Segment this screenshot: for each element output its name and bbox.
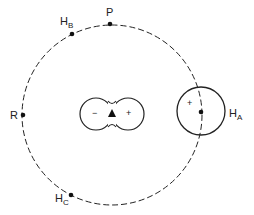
label-hc: HC [55, 193, 69, 204]
point-p [108, 22, 113, 27]
label-p: P [106, 7, 113, 18]
label-hb: HB [60, 16, 73, 27]
minus-sign: − [92, 109, 97, 118]
point-r [21, 113, 26, 118]
point-ha [199, 110, 204, 115]
label-ha: HA [229, 108, 242, 119]
point-hb [70, 32, 75, 37]
point-hc [69, 193, 74, 198]
plus-sign-dipole: + [126, 109, 131, 118]
plus-sign-ha: + [187, 99, 192, 108]
label-r: R [10, 110, 18, 121]
